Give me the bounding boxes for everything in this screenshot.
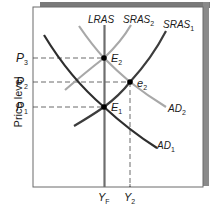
frame-shadow-right xyxy=(203,2,209,186)
lras-label: LRAS xyxy=(88,15,114,25)
y2-label: Y2 xyxy=(124,192,135,203)
ad-as-diagram: Price level P3 P2 P1 YF Y2 LRAS SRAS2 SR… xyxy=(0,0,210,209)
point-e1 xyxy=(101,104,107,110)
e1-label: E1 xyxy=(111,102,122,113)
point-e2 xyxy=(101,55,107,61)
e2-short-run-label: e2 xyxy=(137,78,147,89)
sras1-label: SRAS1 xyxy=(163,20,194,30)
e2-label: E2 xyxy=(111,53,122,64)
point-e2-short-run xyxy=(127,79,133,85)
p2-label: P2 xyxy=(16,76,28,88)
p3-label: P3 xyxy=(16,52,28,64)
ad1-label: AD1 xyxy=(157,141,175,151)
sras2-label: SRAS2 xyxy=(123,15,154,25)
p1-label: P1 xyxy=(16,101,28,113)
plot-frame xyxy=(33,7,203,187)
ad2-label: AD2 xyxy=(168,104,186,114)
yf-label: YF xyxy=(98,192,110,203)
